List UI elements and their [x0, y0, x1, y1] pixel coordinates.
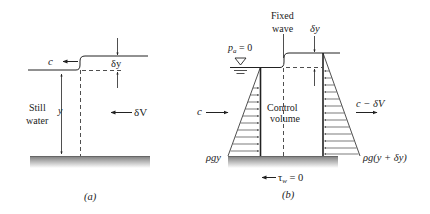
- wave-speed-label-a: c: [48, 55, 53, 67]
- depth-label-a: y: [57, 105, 63, 116]
- right-pressure-label: ρg(y + δy): [362, 152, 407, 164]
- left-pressure-label: ρgy: [205, 152, 221, 163]
- left-pressure-distribution: [228, 67, 261, 156]
- caption-a: (a): [84, 191, 97, 203]
- right-pressure-distribution: [323, 53, 360, 156]
- panel-b: Fixed wave δy pa = 0 Control volume: [197, 10, 407, 201]
- inflow-label: c: [197, 105, 202, 117]
- still-water-label-line1: Still: [29, 102, 46, 113]
- ground-a: [30, 156, 150, 168]
- free-surface-a: [28, 56, 148, 70]
- wave-height-label-a: δy: [111, 58, 122, 69]
- caption-b: (b): [282, 189, 295, 201]
- fixed-wave-label-line2: wave: [272, 23, 294, 34]
- velocity-change-label-a: δV: [134, 106, 147, 118]
- still-water-label-line2: water: [26, 115, 49, 126]
- atmospheric-pressure-label: pa = 0: [227, 42, 252, 55]
- free-surface-symbol: [234, 58, 247, 74]
- wall-shear-label: τw = 0: [278, 172, 303, 185]
- outflow-label: c − δV: [356, 98, 386, 109]
- control-volume-label-line2: volume: [270, 113, 301, 124]
- fixed-wave-label-line1: Fixed: [271, 10, 294, 21]
- wave-diagram: c δy y Still water δV (a) Fixed wave: [0, 0, 430, 214]
- control-volume-label-line1: Control: [267, 102, 298, 113]
- panel-a: c δy y Still water δV (a): [26, 38, 150, 203]
- ground-b: [228, 156, 338, 168]
- wave-height-label-b: δy: [310, 23, 320, 34]
